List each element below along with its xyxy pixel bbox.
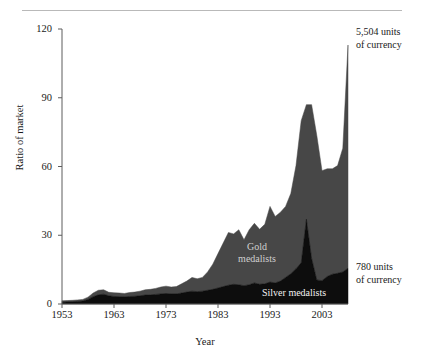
y-tick-0: 0 xyxy=(16,299,52,310)
top-value-annotation: 5,504 units of currency xyxy=(356,26,402,51)
x-tick-1953: 1953 xyxy=(38,310,86,321)
x-tick-1993: 1993 xyxy=(246,310,294,321)
y-tick-30: 30 xyxy=(16,230,52,241)
x-tick-1963: 1963 xyxy=(90,310,138,321)
y-tick-60: 60 xyxy=(16,162,52,173)
header-divider xyxy=(22,10,402,11)
x-tick-1983: 1983 xyxy=(194,310,242,321)
cut-off-header-text xyxy=(0,0,424,2)
bottom-value-annotation: 780 units of currency xyxy=(356,261,402,286)
x-axis-title: Year xyxy=(62,336,348,347)
x-tick-1973: 1973 xyxy=(142,310,190,321)
y-tick-90: 90 xyxy=(16,93,52,104)
y-tick-120: 120 xyxy=(16,24,52,35)
area-chart-plot xyxy=(0,0,424,360)
x-tick-2003: 2003 xyxy=(298,310,346,321)
chart-figure: Ratio of market Year 0306090120 19531963… xyxy=(0,0,424,360)
